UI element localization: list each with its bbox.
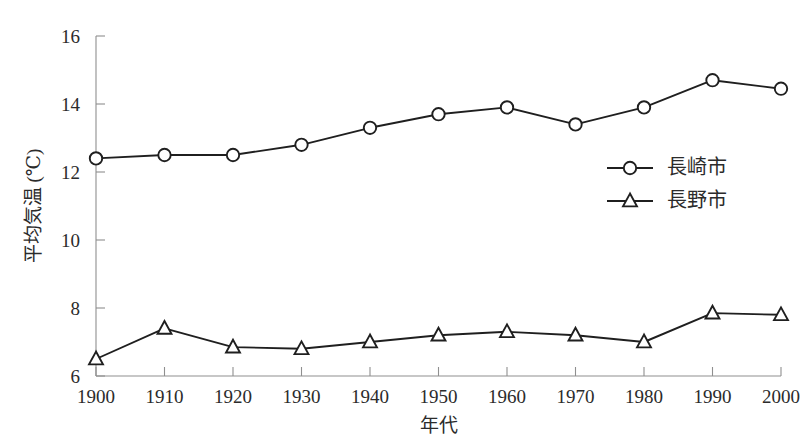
data-point-marker [227,149,239,161]
y-tick-label: 16 [61,26,80,47]
data-point-marker [364,122,376,134]
x-tick-label: 1960 [488,386,526,407]
data-point-marker [89,352,103,365]
chart-figure: 6810121416 19001910192019301940195019601… [0,0,805,446]
y-axis-title: 平均気温 (℃) [23,149,45,264]
y-axis-group: 6810121416 [61,26,105,387]
series-1 [90,74,787,165]
y-tick-label-group: 6810121416 [61,26,81,387]
data-point-marker [500,324,514,337]
legend-marker-triangle [623,194,637,207]
data-point-marker [295,139,307,151]
x-tick-label: 1950 [420,386,458,407]
data-point-marker [432,108,444,120]
data-point-marker [706,306,720,319]
data-series-group [89,74,788,364]
x-tick-label: 1990 [694,386,732,407]
data-point-marker [90,152,102,164]
chart-canvas: 6810121416 19001910192019301940195019601… [0,0,805,446]
data-point-marker [775,83,787,95]
x-tick-label: 2000 [762,386,800,407]
y-tick-group [96,36,105,376]
x-tick-label: 1920 [214,386,252,407]
data-point-marker [158,149,170,161]
x-axis-title: 年代 [420,415,458,436]
data-point-marker [158,321,172,334]
y-tick-label: 14 [61,94,81,115]
y-tick-label: 12 [61,162,80,183]
x-tick-label: 1970 [557,386,595,407]
y-tick-label: 6 [71,366,81,387]
chart-legend: 長崎市長野市 [607,156,727,211]
x-tick-label: 1910 [146,386,184,407]
x-axis-group: 1900191019201930194019501960197019801990… [77,367,800,407]
x-tick-label: 1900 [77,386,115,407]
legend-label: 長崎市 [667,156,727,178]
x-tick-label: 1980 [625,386,663,407]
legend-marker-circle [624,162,636,174]
data-point-marker [501,101,513,113]
x-tick-label-group: 1900191019201930194019501960197019801990… [77,386,800,407]
data-point-marker [569,118,581,130]
data-point-marker [638,101,650,113]
x-tick-label: 1940 [351,386,389,407]
x-tick-label: 1930 [283,386,321,407]
legend-label: 長野市 [667,189,727,211]
series-2 [89,306,788,365]
x-tick-group [96,367,781,376]
y-tick-label: 10 [61,230,80,251]
data-point-marker [706,74,718,86]
y-tick-label: 8 [71,298,81,319]
